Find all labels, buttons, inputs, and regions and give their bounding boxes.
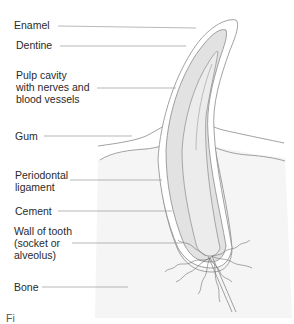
label-periodontal-ligament: Periodontal ligament [15, 169, 68, 193]
gum-right-outline [210, 125, 284, 143]
label-enamel: Enamel [14, 19, 50, 31]
label-wall-of-tooth: Wall of tooth (socket or alveolus) [14, 225, 72, 261]
leader-enamel [58, 26, 196, 28]
figure-caption: Fi [6, 312, 15, 324]
label-gum: Gum [15, 130, 38, 142]
label-pulp-cavity: Pulp cavity with nerves and blood vessel… [16, 69, 90, 105]
label-dentine: Dentine [16, 39, 52, 51]
label-bone: Bone [14, 281, 39, 293]
label-cement: Cement [15, 205, 52, 217]
